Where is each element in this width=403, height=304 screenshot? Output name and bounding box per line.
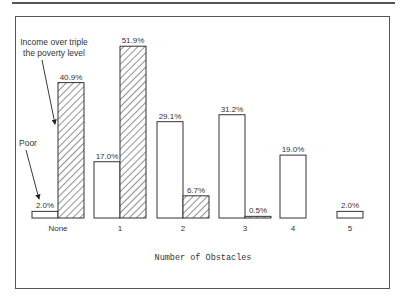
- arrow-poor-icon: [26, 150, 39, 199]
- bar-rich-2: [183, 196, 209, 218]
- annotation-poor: Poor: [19, 138, 37, 148]
- bar-poor-4: [280, 155, 306, 218]
- value-label: 19.0%: [282, 145, 305, 154]
- value-label: 31.2%: [221, 105, 244, 114]
- value-label: 51.9%: [122, 36, 145, 45]
- bar-poor-1: [94, 162, 120, 218]
- bar-rich-3: [245, 216, 271, 218]
- bar-poor-3: [219, 115, 245, 218]
- category-label: 1: [118, 224, 123, 233]
- value-label: 40.9%: [60, 73, 83, 82]
- x-axis-label: Number of Obstacles: [155, 253, 252, 263]
- category-label: 2: [181, 224, 186, 233]
- bar-poor-2: [157, 122, 183, 218]
- value-label: 0.5%: [249, 206, 267, 215]
- bar-poor-5: [337, 211, 363, 218]
- arrow-rich-icon: [42, 60, 55, 124]
- category-labels-group: None12345: [48, 224, 352, 233]
- category-label: 3: [243, 224, 248, 233]
- bar-poor-none: [32, 211, 58, 218]
- category-label: 4: [291, 224, 296, 233]
- category-label: None: [48, 224, 68, 233]
- value-label: 17.0%: [96, 152, 119, 161]
- bar-rich-none: [58, 83, 84, 218]
- category-label: 5: [348, 224, 353, 233]
- value-label: 2.0%: [341, 201, 359, 210]
- bar-rich-1: [120, 46, 146, 218]
- annotation-rich-line1: Income over triple: [20, 37, 88, 47]
- value-label: 2.0%: [36, 201, 54, 210]
- value-label: 29.1%: [159, 112, 182, 121]
- bar-chart: 2.0%40.9%17.0%51.9%29.1%6.7%31.2%0.5%19.…: [0, 0, 403, 304]
- value-label: 6.7%: [187, 186, 205, 195]
- annotation-rich-line2: the poverty level: [23, 48, 85, 58]
